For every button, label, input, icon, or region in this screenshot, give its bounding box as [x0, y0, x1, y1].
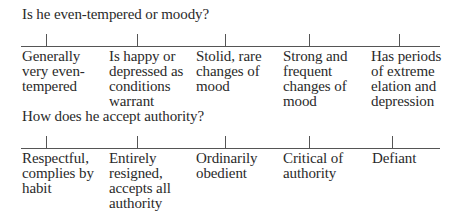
option-label: Critical of authority	[283, 151, 343, 181]
rating-scale-line-temperament	[21, 46, 440, 47]
option-label: Respectful, complies by habit	[22, 151, 94, 196]
option-label: Is happy or depressed as conditions warr…	[109, 49, 183, 109]
option-label: Strong and frequent changes of mood	[283, 49, 347, 109]
scale-tick-3[interactable]	[225, 136, 226, 148]
question-authority: How does he accept authority?	[22, 108, 204, 124]
option-label: Stolid, rare changes of mood	[196, 49, 261, 94]
option-label: Has periods of extreme elation and depre…	[371, 49, 441, 109]
option-label: Defiant	[372, 151, 416, 166]
scale-tick-1[interactable]	[46, 34, 47, 46]
option-label: Ordinarily obedient	[196, 151, 257, 181]
scale-tick-2[interactable]	[137, 136, 138, 148]
option-label: Generally very even- tempered	[22, 49, 85, 94]
scale-tick-4[interactable]	[309, 34, 310, 46]
scale-tick-2[interactable]	[137, 34, 138, 46]
scale-tick-4[interactable]	[309, 136, 310, 148]
question-temperament: Is he even-tempered or moody?	[22, 6, 209, 22]
scale-tick-1[interactable]	[46, 136, 47, 148]
rating-scale-line-authority	[21, 148, 440, 149]
scale-tick-5[interactable]	[392, 136, 393, 148]
scale-tick-5[interactable]	[399, 34, 400, 46]
option-label: Entirely resigned, accepts all authority	[109, 151, 171, 211]
scale-tick-3[interactable]	[225, 34, 226, 46]
